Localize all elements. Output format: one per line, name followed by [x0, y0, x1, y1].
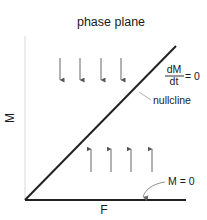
y-axis-label: M [3, 113, 17, 123]
nullcline-line [25, 46, 176, 200]
m-zero-leader-arrow [143, 182, 165, 197]
up-arrows-group [91, 149, 152, 172]
down-arrows-group [60, 58, 121, 80]
m-zero-label: M = 0 [168, 175, 195, 187]
equation-rhs: = 0 [185, 70, 200, 82]
nullcline-equation: dM dt = 0 [165, 63, 200, 87]
x-axis-label: F [100, 203, 107, 217]
equation-numerator: dM [167, 63, 182, 75]
nullcline-label: nullcline [153, 94, 191, 106]
phase-plane-diagram: phase plane M F dM dt = 0 nullcline M = … [0, 0, 207, 220]
diagram-title: phase plane [77, 15, 145, 29]
equation-denominator: dt [170, 75, 179, 87]
nullcline-leader-line [139, 92, 151, 100]
diagram-canvas: phase plane M F dM dt = 0 nullcline M = … [0, 0, 207, 220]
